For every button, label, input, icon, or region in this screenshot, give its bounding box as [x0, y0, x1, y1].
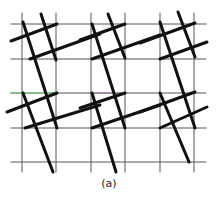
- shallow-thick-line: [25, 105, 100, 128]
- thick-crossing-lines: [7, 12, 207, 172]
- lattice-diagram: [0, 0, 218, 201]
- steep-thick-line: [160, 22, 195, 128]
- figure-caption: (a): [0, 177, 218, 190]
- steep-thick-line: [23, 22, 57, 128]
